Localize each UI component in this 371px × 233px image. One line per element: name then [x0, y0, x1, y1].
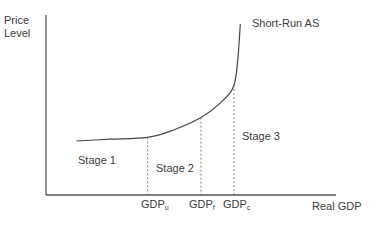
- curve-label: Short-Run AS: [252, 17, 319, 30]
- y-axis-label-line2: Level: [4, 27, 30, 40]
- x-tick-gdp-u: GDPu: [141, 198, 169, 211]
- stage-3-label: Stage 3: [242, 130, 280, 143]
- x-axis-label: Real GDP: [312, 200, 362, 213]
- y-axis-label-line1: Price: [4, 14, 30, 27]
- aggregate-supply-diagram: [0, 0, 371, 233]
- stage-1-label: Stage 1: [78, 154, 116, 167]
- x-tick-gdp-f: GDPf: [189, 198, 215, 211]
- stage-2-label: Stage 2: [156, 162, 194, 175]
- x-tick-gdp-c: GDPc: [223, 198, 250, 211]
- short-run-as-curve: [76, 24, 240, 141]
- y-axis-label: Price Level: [4, 14, 30, 40]
